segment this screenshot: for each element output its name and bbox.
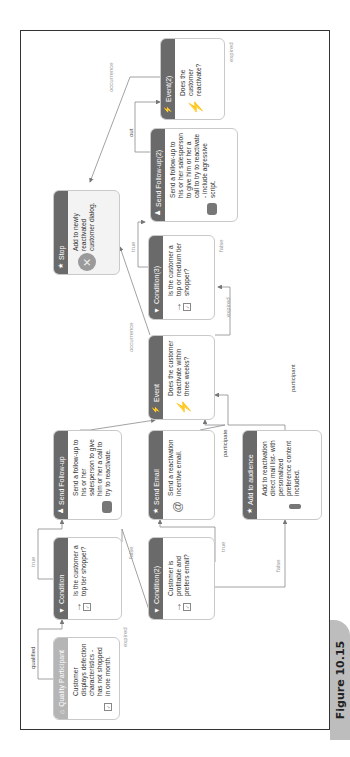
node-text: Send a follow-up to his or her salespers…	[72, 435, 112, 496]
stop-x-icon: ✕	[78, 253, 96, 271]
edge-label-false-3: false	[218, 239, 224, 252]
node-title: Event(2)	[165, 76, 172, 102]
filter-icon: ▼	[58, 607, 65, 614]
node-stop[interactable]: ★Stop ✕ Add to newly reactivated custome…	[53, 190, 120, 275]
node-quality-participant[interactable]: ⌂Quality Participant ✓ Customer displays…	[53, 637, 120, 720]
checkbox-icon: ✓	[183, 603, 191, 611]
edge-label-true-3: true	[130, 242, 136, 252]
filter-icon: ▼	[153, 607, 160, 614]
node-text: Customer is profitable and prefers email…	[167, 542, 191, 596]
edge-label-occurrence-2: occurrence	[108, 62, 114, 92]
edge-label-true-1: true	[30, 557, 36, 567]
lightning-icon: ⚡	[167, 399, 191, 415]
edge-out-1	[80, 420, 155, 430]
node-title: Stop	[58, 246, 65, 260]
edge-label-occurrence-1: occurrence	[128, 322, 134, 352]
edge-label-expired-event: expired	[225, 297, 231, 317]
edge-label-out-2: out	[128, 129, 134, 137]
node-text: Send a reactivation incentive email.	[167, 435, 183, 496]
node-text: Add to newly reactivated customer dialog…	[72, 195, 96, 251]
edge-label-true-2: true	[220, 542, 226, 552]
node-send-followup-2[interactable]: ♟Send Follow-up(2) Send a follow-up to h…	[150, 128, 238, 222]
node-condition-3[interactable]: ▼Condition(3) →✓ Is the customer a top o…	[148, 235, 215, 320]
node-event[interactable]: ⚡Event ⚡ Does the customer reactivate wi…	[148, 335, 215, 420]
lightning-icon: ⚡	[152, 405, 160, 414]
checkbox-icon: ✓	[183, 303, 191, 311]
arrow-right-icon: →	[72, 602, 83, 612]
contact-icon	[169, 201, 217, 217]
star-icon: ★	[57, 263, 65, 269]
lightning-icon: ⚡	[164, 105, 172, 114]
node-title: Send Follow-up	[58, 456, 65, 505]
node-title: Send Follow-up(2)	[155, 150, 162, 207]
node-event-2[interactable]: ⚡Event(2) ⚡ Does the customer reactivate…	[160, 38, 225, 120]
edge-label-participant: participant	[290, 364, 296, 392]
edge-label-false-2: false	[275, 559, 281, 572]
edge-true-3	[138, 222, 148, 267]
edge-label-participate: participate	[222, 429, 228, 457]
node-text: Customer displays defection characterist…	[72, 642, 112, 696]
node-condition[interactable]: ▼Condition →✓ Is the customer a top tier…	[53, 537, 122, 620]
email-icon: @	[167, 499, 183, 515]
edge-participant	[215, 395, 285, 430]
node-title: Condition(2)	[153, 566, 160, 604]
node-text: Does the customer reactivate?	[179, 43, 203, 96]
node-title: Event	[153, 384, 160, 402]
node-add-to-audience[interactable]: ★Add to audience Add to reactivation dir…	[242, 430, 322, 520]
node-text: Is the customer a top or medium tier sho…	[167, 240, 191, 296]
edge-label-expired-event2: expired	[228, 42, 234, 62]
node-title: Condition(3)	[153, 266, 160, 304]
contact-icon	[72, 499, 112, 515]
node-send-followup[interactable]: ♟Send Follow-up Send a follow-up to his …	[53, 430, 122, 520]
person-icon	[261, 499, 301, 515]
people-icon: ♟	[154, 210, 162, 216]
lightning-icon: ⚡	[179, 99, 203, 115]
edge-false-2	[215, 520, 285, 587]
node-text: Is the customer a top tier shopper?	[72, 542, 91, 596]
edge-label-qualified: qualified	[30, 647, 36, 669]
node-title: Send Email	[153, 469, 160, 505]
node-send-email[interactable]: ★Send Email @ Send a reactivation incent…	[148, 430, 215, 520]
node-condition-2[interactable]: ▼Condition(2) →✓ Customer is profitable …	[148, 537, 215, 620]
star-icon: ★	[152, 508, 160, 514]
node-text: Does the customer reactivate within thre…	[167, 340, 191, 396]
filter-icon: ▼	[153, 307, 160, 314]
people-icon: ♟	[57, 508, 65, 514]
edge-label-false-1: false	[128, 546, 134, 559]
checkbox-icon: ✓	[104, 703, 112, 711]
person-icon: ✓	[72, 699, 112, 715]
node-title: Quality Participant	[58, 650, 65, 707]
arrow-right-icon: →	[172, 602, 183, 612]
edge-label-expired-qp: expired	[122, 627, 128, 647]
edge-occurrence-1	[120, 247, 150, 335]
node-text: Add to reactivation direct mail list- wi…	[261, 435, 301, 496]
star-icon: ★	[246, 508, 254, 514]
diagram-stage: Figure 10.15	[0, 0, 350, 757]
node-text: Send a follow-up to his or her salespers…	[169, 133, 217, 198]
arrow-right-icon: →	[172, 302, 183, 312]
node-title: Add to audience	[247, 454, 254, 505]
checkbox-icon: ✓	[83, 603, 91, 611]
house-icon: ⌂	[58, 710, 65, 714]
node-title: Condition	[58, 574, 65, 604]
